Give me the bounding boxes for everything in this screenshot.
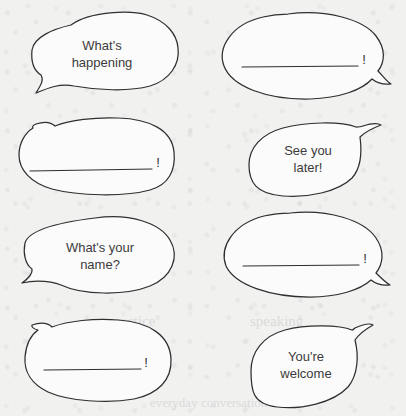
- speech-bubble-1[interactable]: What's happening: [32, 12, 178, 93]
- speech-bubble-8[interactable]: You're welcome: [251, 324, 373, 408]
- bubble-7-exclamation: !: [144, 355, 148, 370]
- bubble-6-exclamation: !: [363, 251, 367, 266]
- bubble-5-line-1: What's your: [66, 240, 135, 255]
- speech-bubble-2[interactable]: !: [222, 13, 391, 99]
- bubble-1-line-1: What's: [82, 38, 122, 53]
- bubble-5-line-2: name?: [80, 257, 120, 272]
- speech-bubble-4[interactable]: See you later!: [249, 123, 381, 196]
- bubble-4-line-2: later!: [294, 160, 323, 175]
- bubble-2-exclamation: !: [362, 52, 366, 67]
- bubble-3-exclamation: !: [156, 155, 160, 170]
- bubble-7-outline: [25, 319, 171, 401]
- bubble-8-line-2: welcome: [279, 366, 331, 381]
- bubble-1-line-2: happening: [72, 55, 133, 70]
- bubble-8-line-1: You're: [288, 349, 324, 364]
- speech-bubble-6[interactable]: !: [224, 212, 390, 297]
- speech-bubble-5[interactable]: What's your name?: [22, 217, 174, 293]
- speech-bubble-3[interactable]: !: [19, 118, 174, 195]
- worksheet-page: practice speaking greetings and replies …: [0, 0, 406, 416]
- speech-bubbles-canvas: What's happening ! ! See you later! What…: [0, 0, 406, 416]
- speech-bubble-7[interactable]: !: [25, 319, 171, 401]
- bubble-4-line-1: See you: [284, 143, 332, 158]
- bubble-3-outline: [19, 118, 174, 195]
